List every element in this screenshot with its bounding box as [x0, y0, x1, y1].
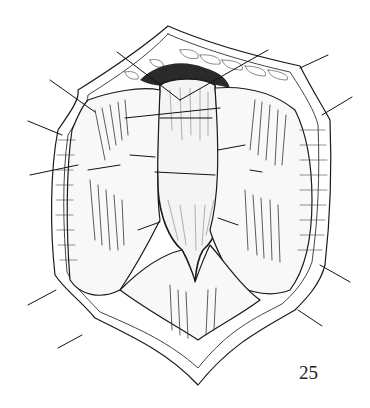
surgical-illustration	[0, 0, 370, 408]
figure-number: 25	[299, 362, 318, 384]
left-muscle	[67, 89, 160, 295]
